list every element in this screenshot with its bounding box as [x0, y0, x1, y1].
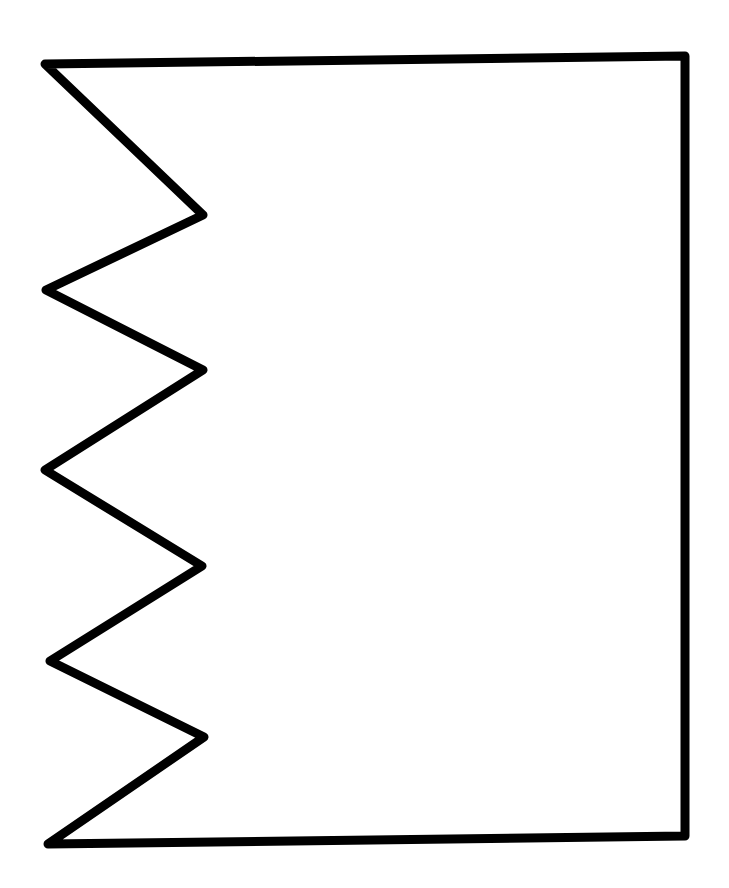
diagram-canvas [0, 0, 729, 888]
zigzag-rectangle-diagram [0, 0, 729, 888]
zigzag-edged-rectangle-shape [45, 56, 685, 844]
